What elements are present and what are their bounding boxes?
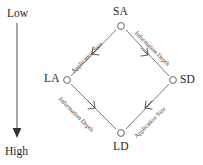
low-to-high-arrow	[13, 23, 22, 138]
diagram-canvas: SA LA SD LD Low High Application Size In…	[0, 0, 203, 165]
scale-label-high: High	[5, 146, 28, 158]
node-label-sd: SD	[180, 74, 195, 86]
scale-label-low: Low	[7, 8, 28, 20]
diagram-vector-layer	[0, 0, 203, 165]
node-label-ld: LD	[113, 141, 129, 153]
node-circle-la[interactable]	[64, 77, 71, 84]
scale-arrow-head	[13, 128, 22, 138]
node-circle-sd[interactable]	[170, 77, 177, 84]
diagram-arrowheads	[88, 47, 152, 109]
arrowhead-sd-ld	[145, 101, 152, 109]
arrowhead-la-ld	[88, 101, 95, 109]
node-circle-sa[interactable]	[118, 23, 125, 30]
node-label-la: LA	[44, 73, 60, 85]
node-circle-ld[interactable]	[118, 130, 125, 137]
node-label-sa: SA	[113, 6, 128, 18]
